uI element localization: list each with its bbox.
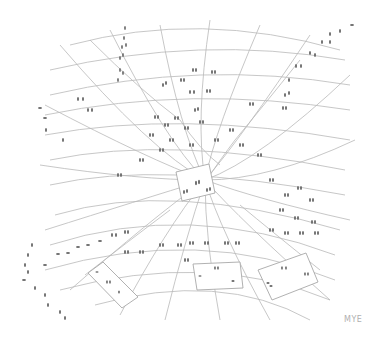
- lower-left-panel: [88, 262, 138, 308]
- artist-signature: MYE: [344, 315, 362, 324]
- lower-right-panel: [258, 253, 318, 300]
- warped-grid-drawing: [0, 0, 383, 350]
- artwork-canvas: MYE: [0, 0, 383, 350]
